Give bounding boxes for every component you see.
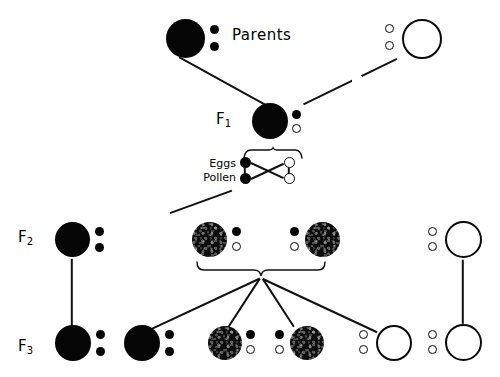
generation-label-f1-sub: 1 <box>225 118 231 129</box>
cross-line-parent-black-to-f1 <box>178 56 269 108</box>
f3-individual-6-disc <box>445 324 482 361</box>
parent-white-allele-dot-1 <box>385 24 394 33</box>
cross-line-parent-white-to-f1 <box>303 58 397 105</box>
f3-individual-4-allele-dot-white <box>275 345 284 354</box>
generation-label-f3-letter: F <box>18 337 27 355</box>
f2-individual-4-disc <box>445 221 482 258</box>
gamete-label-eggs: Eggs <box>196 157 236 170</box>
f3-individual-3-allele-dot-white <box>246 345 255 354</box>
f3-individual-4-allele-dot-black <box>275 330 284 339</box>
f3-individual-2-allele-dot-1 <box>165 330 174 339</box>
f3-individual-1-allele-dot-1 <box>96 330 105 339</box>
parent-black-allele-dot-2 <box>210 42 219 51</box>
f3-individual-2-allele-dot-2 <box>165 347 174 356</box>
gamete-label-pollen: Pollen <box>190 171 236 184</box>
f2-individual-1-allele-dot-1 <box>95 227 104 236</box>
gamete-pollen-black <box>240 173 251 184</box>
f3-individual-6-allele-dot-1 <box>428 330 437 339</box>
line-f2-1-to-f3-1 <box>71 259 73 326</box>
parents-heading: Parents <box>232 26 291 44</box>
f2-individual-2-allele-dot-black <box>232 227 241 236</box>
line-gametes-to-f2-left <box>170 190 233 214</box>
gamete-link-left <box>244 168 246 174</box>
generation-label-f2-sub: 2 <box>27 236 33 247</box>
f2-heterozygote-brace <box>196 261 326 277</box>
f3-individual-1-disc <box>55 325 91 361</box>
f1-disc <box>252 103 288 139</box>
generation-label-f3-sub: 3 <box>27 345 33 356</box>
parent-black-disc <box>166 19 205 58</box>
f3-individual-5-disc <box>376 325 412 361</box>
generation-label-f2-letter: F <box>18 228 27 246</box>
f3-individual-6-allele-dot-2 <box>428 345 437 354</box>
gamete-pollen-white <box>284 173 295 184</box>
parent-white-disc <box>402 19 442 59</box>
gamete-egg-black <box>240 157 251 168</box>
f3-individual-1-allele-dot-2 <box>96 347 105 356</box>
f2-individual-1-allele-dot-2 <box>95 243 104 252</box>
generation-label-f1: F1 <box>216 110 231 128</box>
f3-individual-5-allele-dot-2 <box>359 345 368 354</box>
f1-gamete-brace <box>243 148 303 160</box>
gamete-egg-white <box>284 157 295 168</box>
line-f2-4-to-f3-6 <box>462 260 464 324</box>
gamete-link-right <box>288 168 290 174</box>
generation-label-f2: F2 <box>18 228 33 246</box>
f3-individual-2-disc <box>124 325 160 361</box>
f3-individual-3-disc <box>208 326 242 360</box>
f2-individual-2-allele-dot-white <box>232 242 241 251</box>
f2-individual-4-allele-dot-2 <box>428 242 437 251</box>
f1-allele-dot-white <box>292 124 301 133</box>
f2-individual-3-allele-dot-white <box>290 242 299 251</box>
f2-individual-3-disc <box>305 222 340 257</box>
generation-label-f1-letter: F <box>216 110 225 128</box>
f2-individual-1-disc <box>55 222 90 257</box>
f3-individual-5-allele-dot-1 <box>359 330 368 339</box>
generation-label-f3: F3 <box>18 337 33 355</box>
f1-allele-dot-black <box>292 110 301 119</box>
f2-individual-2-disc <box>192 222 227 257</box>
inheritance-diagram: Parents F1 Eggs Pollen F2 <box>0 0 500 377</box>
parent-white-allele-dot-2 <box>385 41 394 50</box>
parent-black-allele-dot-1 <box>210 25 219 34</box>
f2-individual-3-allele-dot-black <box>290 227 299 236</box>
f3-individual-3-allele-dot-black <box>246 330 255 339</box>
f3-individual-4-disc <box>290 326 324 360</box>
f2-individual-4-allele-dot-1 <box>428 227 437 236</box>
